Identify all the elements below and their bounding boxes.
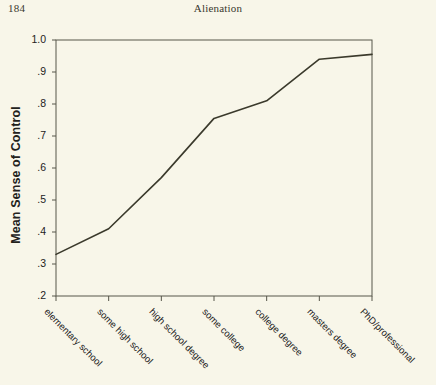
plot-frame-rect: [56, 40, 372, 296]
y-axis-tick-label: .4: [20, 225, 46, 237]
y-axis-tick-label: .2: [20, 289, 46, 301]
y-axis-tick-label: .8: [20, 97, 46, 109]
y-axis-tick-label: .7: [20, 129, 46, 141]
line-chart: Mean Sense of Control 1.0.9.8.7.6.5.4.3.…: [0, 0, 436, 385]
y-axis-tick-label: .3: [20, 257, 46, 269]
y-axis-tick-label: 1.0: [20, 33, 46, 45]
plot-frame: [56, 40, 372, 296]
y-axis-tick-label: .9: [20, 65, 46, 77]
book-page: 184 Alienation Mean Sense of Control 1.0…: [0, 0, 436, 385]
data-series-line: [56, 54, 372, 254]
y-axis-tick-label: .6: [20, 161, 46, 173]
y-axis-tick-label: .5: [20, 193, 46, 205]
x-axis-tick-marks: [56, 296, 372, 301]
y-axis-tick-marks: [52, 40, 56, 296]
y-axis-title: Mean Sense of Control: [9, 85, 23, 265]
